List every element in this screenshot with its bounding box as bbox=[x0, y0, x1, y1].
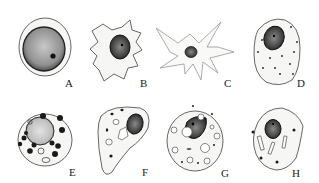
cell-e-nucleus bbox=[26, 117, 54, 145]
label-g: G bbox=[221, 167, 229, 179]
cell-e: E bbox=[18, 113, 76, 178]
label-f: F bbox=[142, 166, 148, 178]
cell-b: B bbox=[90, 20, 147, 89]
label-h: H bbox=[292, 167, 300, 179]
cell-c-nucleus bbox=[185, 47, 197, 58]
cell-c: C bbox=[156, 22, 234, 89]
label-e: E bbox=[69, 166, 76, 178]
cell-h-nucleus bbox=[265, 120, 281, 139]
label-a: A bbox=[65, 77, 73, 89]
cell-g: G bbox=[167, 105, 229, 179]
cell-a-nucleolus bbox=[50, 53, 55, 58]
cell-d: D bbox=[254, 19, 305, 89]
label-c: C bbox=[224, 77, 231, 89]
cell-types-figure: A B C D bbox=[0, 0, 319, 183]
cell-a-nucleus bbox=[23, 27, 65, 71]
cell-b-nucleus bbox=[110, 35, 130, 59]
cell-a: A bbox=[19, 18, 73, 89]
cell-h: H bbox=[252, 108, 304, 179]
cell-f: F bbox=[98, 107, 149, 178]
label-b: B bbox=[140, 77, 147, 89]
label-d: D bbox=[297, 77, 305, 89]
